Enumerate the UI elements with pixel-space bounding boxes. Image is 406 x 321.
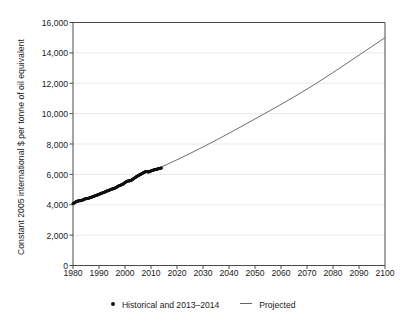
chart-figure: Constant 2005 international $ per tonne … xyxy=(0,0,406,321)
y-tick-10000: 10,000 xyxy=(24,109,68,119)
dot-marker-icon xyxy=(111,302,115,306)
y-tick-12000: 12,000 xyxy=(24,79,68,89)
line-marker-icon xyxy=(240,303,252,304)
legend-entry-projected: Projected xyxy=(240,298,296,311)
legend-label-historical: Historical and 2013–2014 xyxy=(122,300,219,310)
y-tick-8000: 8,000 xyxy=(24,140,68,150)
series-projected-line xyxy=(156,38,385,170)
x-tick-2100: 2100 xyxy=(365,268,405,278)
series-historical-points xyxy=(71,166,163,205)
y-tick-16000: 16,000 xyxy=(24,18,68,28)
grid-lines xyxy=(73,23,385,236)
y-tick-6000: 6,000 xyxy=(24,170,68,180)
legend-label-projected: Projected xyxy=(259,300,295,310)
y-tick-marks xyxy=(70,23,74,266)
legend-entry-historical: Historical and 2013–2014 xyxy=(111,298,220,311)
y-tick-14000: 14,000 xyxy=(24,48,68,58)
chart-legend: Historical and 2013–2014 Projected xyxy=(0,298,406,311)
y-tick-2000: 2,000 xyxy=(24,231,68,241)
y-tick-4000: 4,000 xyxy=(24,200,68,210)
